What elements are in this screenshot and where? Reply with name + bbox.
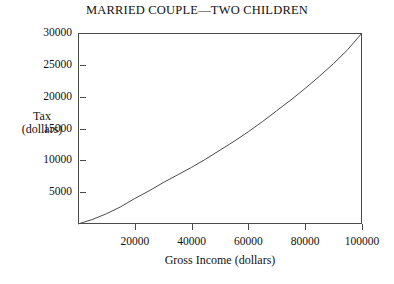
y-axis-tick-label: 25000: [10, 59, 72, 71]
x-axis-tick-label: 100000: [345, 236, 380, 248]
x-axis-tick-label: 40000: [177, 236, 206, 248]
tax-curve-svg: [78, 33, 362, 224]
y-axis-tick-label: 10000: [10, 154, 72, 166]
y-axis-tick-label: 5000: [10, 186, 72, 198]
x-axis-tick-label: 60000: [234, 236, 263, 248]
y-axis-tick-mark: [80, 129, 86, 130]
x-axis-tick-label: 80000: [291, 236, 320, 248]
y-axis-label-line-2: (dollars): [6, 123, 78, 136]
x-axis-tick-mark: [192, 224, 193, 230]
x-axis-tick-mark: [362, 224, 363, 230]
chart-figure: MARRIED COUPLE—TWO CHILDREN 500010000150…: [0, 0, 394, 284]
tax-curve-line: [78, 33, 362, 224]
x-axis-tick-mark: [248, 224, 249, 230]
y-axis-tick-mark: [80, 33, 86, 34]
y-axis-tick-mark: [80, 192, 86, 193]
y-axis-tick-mark: [80, 160, 86, 161]
y-axis-label: Tax (dollars): [6, 110, 78, 135]
y-axis-tick-label: 20000: [10, 91, 72, 103]
x-axis-label: Gross Income (dollars): [78, 253, 362, 268]
y-axis-label-line-1: Tax: [6, 110, 78, 123]
y-axis-tick-group: 50001000015000200002500030000: [8, 0, 72, 284]
y-axis-tick-mark: [80, 97, 86, 98]
x-axis-tick-mark: [305, 224, 306, 230]
x-axis-tick-mark: [135, 224, 136, 230]
y-axis-tick-label: 30000: [10, 27, 72, 39]
x-axis-tick-label: 20000: [120, 236, 149, 248]
y-axis-tick-mark: [80, 65, 86, 66]
